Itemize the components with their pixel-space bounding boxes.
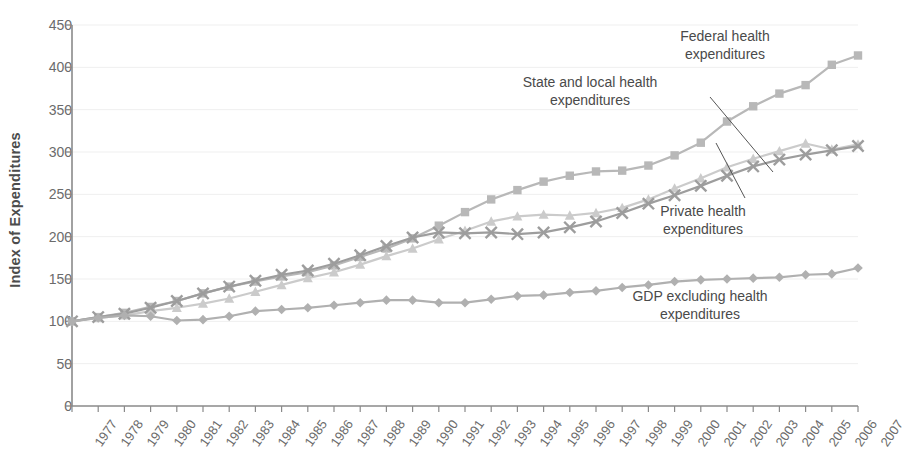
data-point-diamond bbox=[513, 291, 523, 301]
data-point-square bbox=[775, 89, 783, 97]
data-point-square bbox=[801, 81, 809, 89]
data-point-square bbox=[697, 138, 705, 146]
data-point-diamond bbox=[303, 303, 313, 313]
data-point-diamond bbox=[382, 295, 392, 305]
data-point-diamond bbox=[329, 300, 339, 310]
state-local-leader bbox=[710, 97, 773, 172]
data-point-triangle bbox=[801, 138, 811, 147]
data-point-diamond bbox=[827, 269, 837, 279]
data-point-diamond bbox=[617, 283, 627, 293]
data-point-diamond bbox=[670, 277, 680, 287]
series-square bbox=[68, 51, 862, 325]
data-point-square bbox=[828, 61, 836, 69]
data-point-square bbox=[539, 177, 547, 185]
data-point-diamond bbox=[434, 298, 444, 308]
data-point-square bbox=[618, 166, 626, 174]
data-point-diamond bbox=[591, 286, 601, 296]
data-point-diamond bbox=[748, 273, 758, 283]
data-point-diamond bbox=[277, 305, 287, 315]
data-point-square bbox=[487, 195, 495, 203]
annotation-gdp: GDP excluding health expenditures bbox=[632, 288, 767, 323]
data-point-square bbox=[566, 172, 574, 180]
annotation-state-local: State and local health expenditures bbox=[523, 74, 658, 109]
data-point-diamond bbox=[224, 311, 234, 321]
data-point-diamond bbox=[539, 290, 549, 300]
annotation-federal: Federal health expenditures bbox=[680, 28, 770, 63]
series-layer bbox=[66, 51, 863, 327]
data-point-square bbox=[513, 186, 521, 194]
data-point-diamond bbox=[355, 298, 365, 308]
data-point-diamond bbox=[801, 270, 811, 280]
data-point-diamond bbox=[251, 306, 261, 316]
data-point-square bbox=[670, 151, 678, 159]
data-point-diamond bbox=[853, 263, 863, 273]
data-point-square bbox=[723, 117, 731, 125]
x-tick-label: 2007 bbox=[877, 417, 906, 449]
data-point-diamond bbox=[198, 315, 208, 325]
data-point-square bbox=[854, 51, 862, 59]
data-point-diamond bbox=[565, 288, 575, 298]
data-point-diamond bbox=[722, 274, 732, 284]
data-point-diamond bbox=[460, 298, 470, 308]
annotation-private: Private health expenditures bbox=[660, 203, 746, 238]
data-point-diamond bbox=[408, 295, 418, 305]
data-point-diamond bbox=[172, 316, 182, 326]
data-point-diamond bbox=[696, 275, 706, 285]
data-point-square bbox=[644, 161, 652, 169]
data-point-square bbox=[749, 102, 757, 110]
data-point-diamond bbox=[486, 295, 496, 305]
data-point-diamond bbox=[775, 273, 785, 283]
data-point-square bbox=[592, 167, 600, 175]
data-point-square bbox=[461, 208, 469, 216]
